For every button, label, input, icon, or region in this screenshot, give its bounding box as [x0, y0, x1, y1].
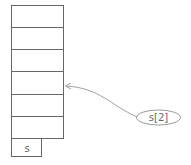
stack-cell-3 [12, 72, 64, 95]
stack-cell-0 [12, 6, 64, 28]
stack-column [12, 6, 64, 157]
pointer-arrow [66, 83, 138, 117]
stack-cell-4 [12, 95, 64, 117]
stack-diagram: s s[2] [0, 0, 191, 165]
base-label: s [24, 143, 29, 154]
stack-cell-5 [12, 117, 64, 139]
stack-cell-2 [12, 50, 64, 72]
pointer-label: s[2] [149, 112, 168, 123]
stack-cell-1 [12, 28, 64, 50]
